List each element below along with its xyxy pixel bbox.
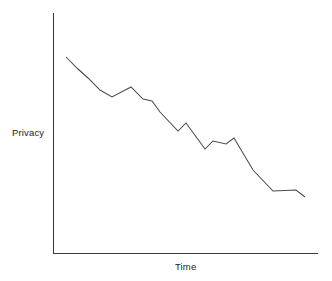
chart-figure: Privacy Time: [0, 0, 332, 281]
y-axis-label: Privacy: [12, 127, 44, 138]
privacy-trend-line: [66, 57, 305, 197]
line-chart-plot: [0, 0, 332, 281]
chart-series-group: [66, 57, 305, 197]
chart-axes: [53, 13, 318, 254]
x-axis-label: Time: [175, 261, 196, 272]
